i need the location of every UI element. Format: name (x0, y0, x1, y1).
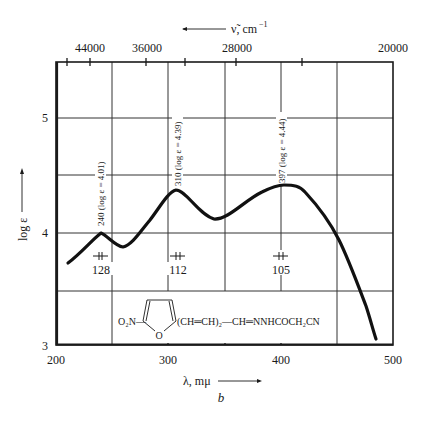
y-tick-label: 3 (42, 339, 48, 353)
y-axis-label: log ε (16, 218, 30, 241)
top-tick-label: 28000 (222, 41, 252, 55)
figure-letter: b (218, 390, 225, 405)
bandwidth-labels: 128 112 105 (89, 262, 293, 277)
top-tick-label: 44000 (75, 41, 105, 55)
bandwidth-128: 128 (92, 263, 110, 277)
peak-label-310: 310 (log ε = 4.39) (173, 121, 183, 186)
top-axis-label-exponent: −1 (259, 20, 268, 29)
x-axis-label: λ, mμ (183, 374, 211, 388)
x-tick-label: 200 (47, 353, 65, 367)
bandwidth-markers (93, 250, 289, 262)
bandwidth-112: 112 (169, 263, 187, 277)
y-axis-title: log ε (16, 168, 30, 241)
top-tick-label: 20000 (378, 41, 408, 55)
x-tick-label: 500 (384, 353, 402, 367)
nitro-group: O₂N— (118, 316, 147, 327)
top-tick-label: 36000 (132, 41, 162, 55)
y-tick-label: 4 (42, 226, 48, 240)
arrow-right-icon (257, 379, 262, 383)
x-axis-labels: 200 300 400 500 (47, 353, 402, 367)
uv-spectrum-chart: 44000 36000 28000 20000 ν̃, cm −1 5 4 3 … (0, 0, 423, 421)
top-axis-label: ν̃, cm (231, 22, 258, 36)
x-axis-title: λ, mμ b (183, 374, 262, 405)
top-axis-title: ν̃, cm −1 (182, 20, 268, 36)
side-chain: (CH═CH)₂—CH═NNHCOCH₂CN (177, 316, 320, 328)
peak-annotations: 240 (log ε = 4.01) 310 (log ε = 4.39) 39… (95, 112, 287, 228)
x-tick-label: 300 (159, 353, 177, 367)
x-tick-label: 400 (272, 353, 290, 367)
peak-label-397: 397 (log ε = 4.44) (277, 118, 287, 183)
bandwidth-105: 105 (272, 263, 290, 277)
arrow-up-icon (20, 168, 24, 174)
arrow-left-icon (182, 27, 187, 31)
y-axis-labels: 5 4 3 (42, 111, 48, 353)
ring-oxygen: O (155, 330, 162, 341)
chemical-structure: O₂N— O (CH═CH)₂—CH═NNHCOCH₂CN (113, 293, 335, 343)
y-tick-label: 5 (42, 111, 48, 125)
top-axis-labels: 44000 36000 28000 20000 (75, 41, 408, 55)
peak-label-240: 240 (log ε = 4.01) (96, 161, 106, 226)
